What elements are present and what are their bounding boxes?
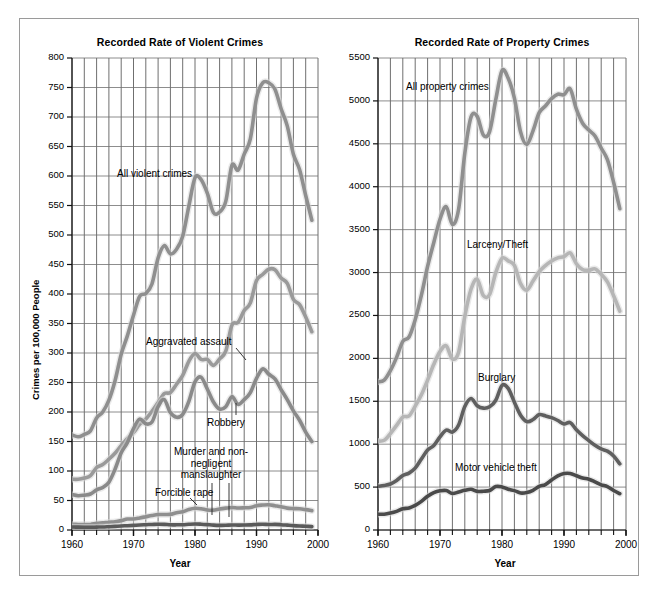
x-tick-label: 1970 [112,539,156,550]
curve-label-all-violent-crimes: All violent crimes [117,168,192,179]
x-tick-label: 1960 [50,539,94,550]
chart-title-violent: Recorded Rate of Violent Crimes [40,36,320,48]
y-tick-label: 2000 [330,351,370,362]
figure-container: Recorded Rate of Violent Crimes Crimes p… [0,0,658,598]
y-tick-label: 5000 [330,94,370,105]
y-tick-label: 3500 [330,223,370,234]
curve-label-aggravated-assault: Aggravated assault [146,336,232,347]
y-tick-label: 4000 [330,180,370,191]
y-tick-label: 400 [24,287,64,298]
chart-svg-property [330,0,658,598]
x-tick-label: 1990 [235,539,279,550]
y-tick-label: 600 [24,169,64,180]
y-tick-label: 250 [24,376,64,387]
x-tick-label: 1970 [418,539,462,550]
y-tick-label: 0 [24,523,64,534]
y-tick-label: 1000 [330,437,370,448]
chart-title-property: Recorded Rate of Property Crimes [362,36,642,48]
y-tick-label: 200 [24,405,64,416]
y-tick-label: 300 [24,346,64,357]
x-tick-label: 1980 [173,539,217,550]
y-tick-label: 350 [24,317,64,328]
y-tick-label: 50 [24,494,64,505]
x-axis-label-violent: Year [110,558,250,569]
chart-panel-property: Recorded Rate of Property Crimes Year 05… [330,0,658,598]
curve-label-motor-vehicle-theft: Motor vehicle theft [455,462,537,473]
y-tick-label: 5500 [330,51,370,62]
curve-label-larceny-theft: Larceny/Theft [467,239,528,250]
y-tick-label: 0 [330,523,370,534]
x-axis-label-property: Year [435,558,575,569]
y-tick-label: 550 [24,199,64,210]
curve-label-forcible-rape: Forcible rape [155,487,213,498]
x-tick-label: 1960 [356,539,400,550]
curve-label-burglary: Burglary [478,372,515,383]
y-tick-label: 650 [24,140,64,151]
y-tick-label: 2500 [330,308,370,319]
y-tick-label: 1500 [330,394,370,405]
y-tick-label: 750 [24,81,64,92]
chart-panel-violent: Recorded Rate of Violent Crimes Crimes p… [0,0,330,598]
y-tick-label: 4500 [330,137,370,148]
curve-label-murder-manslaughter: Murder and non-negligent manslaughter [168,446,254,481]
y-tick-label: 700 [24,110,64,121]
x-tick-label: 1980 [480,539,524,550]
y-tick-label: 100 [24,464,64,475]
y-tick-label: 450 [24,258,64,269]
x-tick-label: 2000 [604,539,648,550]
y-tick-label: 500 [330,480,370,491]
y-tick-label: 800 [24,51,64,62]
curve-label-robbery: Robbery [207,417,245,428]
y-tick-label: 500 [24,228,64,239]
y-tick-label: 150 [24,435,64,446]
y-tick-label: 3000 [330,266,370,277]
curve-label-all-property-crimes: All property crimes [406,81,489,92]
x-tick-label: 1990 [542,539,586,550]
